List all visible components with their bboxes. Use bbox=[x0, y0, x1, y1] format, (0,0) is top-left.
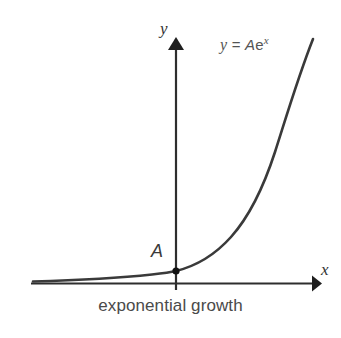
y-intercept-label: A bbox=[151, 242, 163, 260]
figure-caption: exponential growth bbox=[0, 296, 341, 316]
equation-base-e: e bbox=[255, 36, 264, 53]
equation-equals-sign: = bbox=[227, 36, 245, 53]
exponential-growth-figure: y x A y = Aex exponential growth bbox=[0, 0, 341, 338]
y-axis-arrowhead bbox=[168, 37, 184, 50]
axis-label-x: x bbox=[321, 261, 329, 278]
equation-amplitude-A: A bbox=[245, 36, 255, 53]
axis-label-y: y bbox=[160, 20, 168, 37]
equation-exponent-x: x bbox=[264, 34, 269, 46]
exponential-curve bbox=[33, 39, 313, 282]
curve-equation-label: y = Aex bbox=[220, 37, 269, 53]
plot-canvas bbox=[0, 0, 341, 338]
y-intercept-point bbox=[172, 267, 179, 274]
